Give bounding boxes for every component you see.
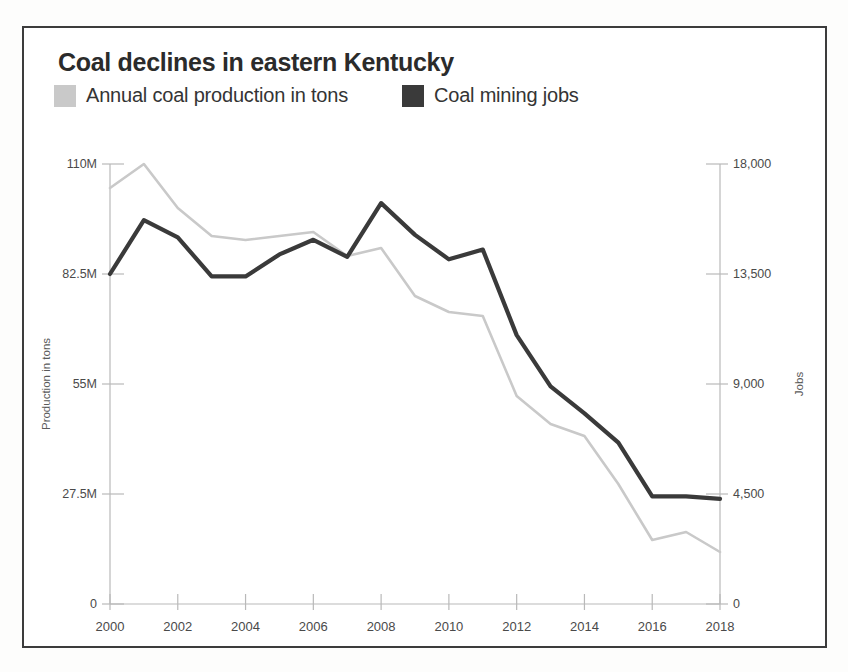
right-axis-title: Jobs	[793, 372, 805, 397]
left-tick-label: 55M	[73, 377, 97, 391]
left-axis-ticks: 110M82.5M55M27.5M0	[62, 157, 124, 611]
x-tick-label: 2000	[96, 619, 125, 634]
x-tick-label: 2018	[706, 619, 735, 634]
x-tick-label: 2014	[570, 619, 599, 634]
x-axis-ticks: 2000200220042006200820102012201420162018	[96, 594, 735, 634]
left-tick-label: 0	[90, 597, 97, 611]
left-tick-label: 110M	[67, 157, 97, 171]
left-tick-label: 82.5M	[62, 267, 97, 281]
right-tick-label: 13,500	[733, 267, 771, 281]
chart-page-frame: Coal declines in eastern Kentucky Annual…	[22, 26, 827, 648]
left-axis-title: Production in tons	[40, 338, 52, 430]
x-tick-label: 2002	[163, 619, 192, 634]
x-tick-label: 2012	[502, 619, 531, 634]
plot-area: 110M82.5M55M27.5M0 18,00013,5009,0004,50…	[24, 28, 829, 650]
chart-svg: 110M82.5M55M27.5M0 18,00013,5009,0004,50…	[24, 28, 829, 650]
right-tick-label: 4,500	[733, 487, 764, 501]
x-tick-label: 2006	[299, 619, 328, 634]
right-tick-label: 9,000	[733, 377, 764, 391]
right-tick-label: 0	[733, 597, 740, 611]
x-tick-label: 2008	[367, 619, 396, 634]
x-tick-label: 2016	[638, 619, 667, 634]
x-tick-label: 2004	[231, 619, 260, 634]
left-tick-label: 27.5M	[62, 487, 97, 501]
series-line-production	[110, 164, 720, 552]
x-tick-label: 2010	[434, 619, 463, 634]
right-axis-ticks: 18,00013,5009,0004,5000	[706, 157, 771, 611]
series-line-jobs	[110, 203, 720, 499]
right-tick-label: 18,000	[733, 157, 771, 171]
